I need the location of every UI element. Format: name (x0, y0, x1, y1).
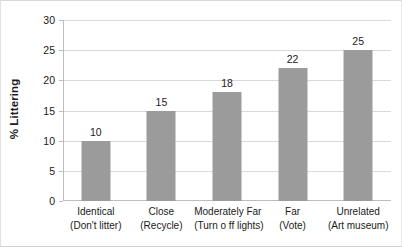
bar-value-label: 25 (352, 35, 364, 47)
bar-value-label: 22 (287, 53, 299, 65)
y-axis-title-text: % Littering (8, 78, 20, 139)
category-label-line-1: Moderately Far (194, 206, 261, 217)
y-tick-label: 5 (49, 165, 55, 177)
bar-slot: 18 (194, 20, 260, 201)
bar[interactable] (278, 68, 307, 201)
category-label-line-2: (Vote) (260, 219, 326, 233)
x-axis-category-label: Identical(Don't litter) (63, 205, 129, 233)
x-axis-category-label: Close(Recycle) (129, 205, 195, 233)
category-label-line-1: Unrelated (337, 206, 380, 217)
bar-slot: 15 (129, 20, 195, 201)
category-label-line-1: Far (285, 206, 300, 217)
bar[interactable] (344, 50, 373, 201)
bar-slot: 10 (63, 20, 129, 201)
x-axis-category-labels: Identical(Don't litter)Close(Recycle)Mod… (63, 205, 391, 245)
category-label-line-2: (Recycle) (129, 219, 195, 233)
y-tick-label: 25 (43, 44, 55, 56)
bar-slot: 25 (325, 20, 391, 201)
y-tick-label: 10 (43, 135, 55, 147)
plot-area: 051015202530 1015182225 (63, 20, 391, 201)
bar[interactable] (147, 111, 176, 202)
bar[interactable] (81, 141, 110, 201)
category-label-line-2: (Turn o ff lights) (194, 219, 260, 233)
category-label-line-2: (Don't litter) (63, 219, 129, 233)
bars-group: 1015182225 (63, 20, 391, 201)
y-tick-label: 0 (49, 195, 55, 207)
bar-value-label: 15 (156, 96, 168, 108)
bar[interactable] (212, 92, 241, 201)
x-axis-category-label: Unrelated(Art museum) (325, 205, 391, 233)
x-axis-category-label: Moderately Far(Turn o ff lights) (194, 205, 260, 233)
y-tick-mark (59, 201, 63, 202)
bar-value-label: 10 (90, 126, 102, 138)
category-label-line-2: (Art museum) (325, 219, 391, 233)
y-tick-label: 30 (43, 14, 55, 26)
bar-chart-figure: % Littering 051015202530 1015182225 Iden… (0, 0, 402, 247)
category-label-line-1: Identical (77, 206, 114, 217)
bar-value-label: 18 (221, 77, 233, 89)
bar-slot: 22 (260, 20, 326, 201)
y-tick-label: 15 (43, 105, 55, 117)
y-tick-label: 20 (43, 74, 55, 86)
y-axis-title: % Littering (3, 1, 25, 216)
x-axis-category-label: Far(Vote) (260, 205, 326, 233)
category-label-line-1: Close (149, 206, 175, 217)
